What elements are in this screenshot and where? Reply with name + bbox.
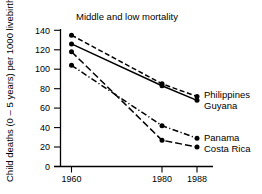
x-axis-ticks xyxy=(72,167,198,173)
data-point xyxy=(160,123,165,128)
x-tick-1960: 1960 xyxy=(61,174,81,184)
data-point xyxy=(195,98,200,103)
y-tick-120: 120 xyxy=(35,45,50,55)
data-point xyxy=(69,41,74,46)
series-label-guyana: Guyana xyxy=(204,100,238,111)
data-point xyxy=(69,63,74,68)
data-point xyxy=(195,145,200,150)
chart-canvas: Child deaths (0 – 5 years) per 1000 live… xyxy=(0,0,262,194)
y-tick-100: 100 xyxy=(35,64,50,74)
series-label-costa-rica: Costa Rica xyxy=(204,143,251,154)
series-guyana xyxy=(69,41,200,102)
chart-title: Middle and low mortality xyxy=(76,11,178,22)
x-axis-tick-labels: 1960 1980 1988 xyxy=(61,174,207,184)
y-tick-140: 140 xyxy=(35,26,50,36)
series-label-panama: Panama xyxy=(204,132,240,143)
data-point xyxy=(160,138,165,143)
series-labels: Philippines Guyana Panama Costa Rica xyxy=(204,89,251,154)
y-tick-80: 80 xyxy=(40,84,50,94)
data-point xyxy=(69,33,74,38)
y-tick-40: 40 xyxy=(40,123,50,133)
y-axis-tick-labels: 0 20 40 60 80 100 120 140 xyxy=(35,26,50,172)
series-panama xyxy=(69,63,200,141)
data-point xyxy=(160,83,165,88)
series-philippines xyxy=(69,33,200,99)
y-axis-title: Child deaths (0 – 5 years) per 1000 live… xyxy=(4,0,15,182)
chart-container: Child deaths (0 – 5 years) per 1000 live… xyxy=(0,0,262,194)
x-tick-1980: 1980 xyxy=(152,174,172,184)
data-point xyxy=(69,49,74,54)
y-tick-20: 20 xyxy=(40,142,50,152)
series-costa-rica xyxy=(69,49,200,149)
x-tick-1988: 1988 xyxy=(187,174,207,184)
y-tick-60: 60 xyxy=(40,103,50,113)
series-label-philippines: Philippines xyxy=(204,89,250,100)
data-point xyxy=(195,136,200,141)
y-axis-ticks xyxy=(54,30,61,166)
y-tick-0: 0 xyxy=(45,162,50,172)
